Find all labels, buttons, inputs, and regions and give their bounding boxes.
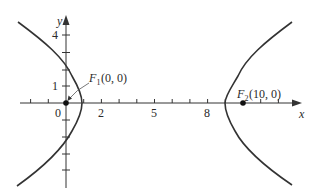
svg-text:(0, 0): (0, 0)	[101, 71, 127, 85]
y-axis-arrow-icon	[63, 15, 70, 25]
x-tick-label-8: 8	[204, 106, 210, 120]
svg-text:1: 1	[97, 78, 101, 87]
hyperbola-figure: y x 4 1 0 2 5 8 F 1 (0, 0) F 2 (10, 0)	[0, 0, 311, 196]
y-tick-label-4: 4	[52, 28, 58, 42]
focus-f1-dot	[63, 100, 69, 106]
x-tick-label-2: 2	[98, 106, 104, 120]
x-tick-label-5: 5	[151, 106, 157, 120]
focus-f2-label: F 2 (10, 0)	[236, 87, 281, 103]
x-tick-label-0: 0	[55, 106, 61, 120]
f1-leader-arrow	[68, 83, 90, 101]
x-axis-label: x	[298, 107, 305, 121]
svg-text:2: 2	[245, 94, 249, 103]
left-hyperbola-branch	[17, 22, 82, 186]
y-axis-label: y	[56, 14, 63, 28]
svg-text:(10, 0): (10, 0)	[249, 87, 281, 101]
y-tick-label-1: 1	[52, 79, 58, 93]
focus-f1-label: F 1 (0, 0)	[88, 71, 127, 87]
x-axis-arrow-icon	[292, 100, 302, 107]
